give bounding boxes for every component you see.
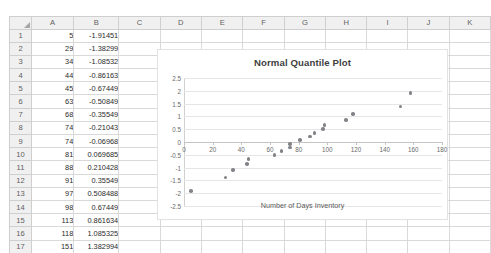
cell-A3[interactable]: 34 [31,55,73,68]
row-header-15[interactable]: 15 [10,214,32,227]
row-header-5[interactable]: 5 [10,82,32,95]
cell-C17[interactable] [119,240,160,253]
data-point[interactable] [280,149,284,153]
cell-C10[interactable] [119,148,160,161]
row-header-3[interactable]: 3 [10,55,32,68]
data-point[interactable] [321,127,325,131]
cell-G16[interactable] [284,227,325,240]
row-header-12[interactable]: 12 [10,174,32,187]
data-point[interactable] [323,123,327,127]
cell-H17[interactable] [326,240,367,253]
cell-I17[interactable] [367,240,408,253]
row-header-7[interactable]: 7 [10,108,32,121]
cell-B14[interactable]: 0.67449 [74,200,119,213]
cell-C5[interactable] [119,82,160,95]
column-header-e[interactable]: E [202,17,243,30]
cell-B11[interactable]: 0.210428 [74,161,119,174]
cell-A10[interactable]: 81 [31,148,73,161]
data-point[interactable] [245,162,249,166]
cell-A8[interactable]: 74 [31,121,73,134]
row-header-2[interactable]: 2 [10,42,32,55]
cell-A9[interactable]: 74 [31,135,73,148]
cell-A2[interactable]: 29 [31,42,73,55]
cell-B9[interactable]: -0.06968 [74,135,119,148]
cell-J17[interactable] [408,240,449,253]
cell-A13[interactable]: 97 [31,187,73,200]
cell-B2[interactable]: -1.38299 [74,42,119,55]
cell-A14[interactable]: 98 [31,200,73,213]
data-point[interactable] [231,168,235,172]
row-header-1[interactable]: 1 [10,29,32,42]
cell-I1[interactable] [367,29,408,42]
cell-J1[interactable] [408,29,449,42]
column-header-k[interactable]: K [449,17,490,30]
data-point[interactable] [288,146,292,150]
cell-D1[interactable] [160,29,201,42]
column-header-j[interactable]: J [408,17,449,30]
cell-F17[interactable] [243,240,284,253]
cell-K11[interactable] [449,161,490,174]
row-header-8[interactable]: 8 [10,121,32,134]
cell-K14[interactable] [449,200,490,213]
data-point[interactable] [298,138,302,142]
row-header-9[interactable]: 9 [10,135,32,148]
cell-K3[interactable] [449,55,490,68]
normal-quantile-plot-chart[interactable]: Normal Quantile Plot 2.521.510.50-0.5-1-… [157,49,448,220]
cell-B6[interactable]: -0.50849 [74,95,119,108]
data-point[interactable] [288,142,292,146]
cell-K8[interactable] [449,121,490,134]
cell-B5[interactable]: -0.67449 [74,82,119,95]
cell-B1[interactable]: -1.91451 [74,29,119,42]
cell-B16[interactable]: 1.085325 [74,227,119,240]
cell-B12[interactable]: 0.35549 [74,174,119,187]
cell-K4[interactable] [449,69,490,82]
cell-A17[interactable]: 151 [31,240,73,253]
column-header-g[interactable]: G [284,17,325,30]
cell-C3[interactable] [119,55,160,68]
cell-B8[interactable]: -0.21043 [74,121,119,134]
cell-A16[interactable]: 118 [31,227,73,240]
row-header-4[interactable]: 4 [10,69,32,82]
column-header-b[interactable]: B [74,17,119,30]
cell-K7[interactable] [449,108,490,121]
cell-E17[interactable] [202,240,243,253]
row-header-14[interactable]: 14 [10,200,32,213]
cell-K2[interactable] [449,42,490,55]
column-header-f[interactable]: F [243,17,284,30]
data-point[interactable] [399,105,403,109]
cell-A15[interactable]: 113 [31,214,73,227]
cell-A1[interactable]: 5 [31,29,73,42]
data-point[interactable] [224,176,228,180]
row-header-16[interactable]: 16 [10,227,32,240]
cell-F1[interactable] [243,29,284,42]
cell-C16[interactable] [119,227,160,240]
cell-B15[interactable]: 0.861634 [74,214,119,227]
cell-C15[interactable] [119,214,160,227]
column-header-i[interactable]: I [367,17,408,30]
cell-C9[interactable] [119,135,160,148]
column-header-c[interactable]: C [119,17,160,30]
cell-I16[interactable] [367,227,408,240]
row-header-10[interactable]: 10 [10,148,32,161]
row-header-6[interactable]: 6 [10,95,32,108]
cell-H16[interactable] [326,227,367,240]
cell-K10[interactable] [449,148,490,161]
cell-K9[interactable] [449,135,490,148]
cell-E16[interactable] [202,227,243,240]
cell-D17[interactable] [160,240,201,253]
cell-C12[interactable] [119,174,160,187]
row-header-13[interactable]: 13 [10,187,32,200]
cell-B7[interactable]: -0.35549 [74,108,119,121]
cell-G17[interactable] [284,240,325,253]
data-point[interactable] [273,153,277,157]
cell-C11[interactable] [119,161,160,174]
cell-A11[interactable]: 88 [31,161,73,174]
cell-C14[interactable] [119,200,160,213]
cell-K12[interactable] [449,174,490,187]
cell-B10[interactable]: 0.069685 [74,148,119,161]
cell-C6[interactable] [119,95,160,108]
cell-B13[interactable]: 0.508488 [74,187,119,200]
cell-C4[interactable] [119,69,160,82]
data-point[interactable] [247,157,251,161]
column-header-h[interactable]: H [326,17,367,30]
